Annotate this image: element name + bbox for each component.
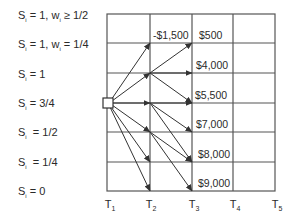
time-label-t3: T3 (189, 198, 200, 215)
decision-tree-grid (0, 0, 294, 216)
value-t3-row6: $9,000 (198, 177, 230, 189)
value-t3-row1: $500 (199, 29, 222, 41)
time-label-t4: T4 (230, 198, 241, 215)
value-t3-row4: $7,000 (196, 118, 228, 130)
time-label-t2: T2 (146, 198, 157, 215)
value-t2-top: -$1,500 (153, 29, 189, 41)
value-t3-row3: $5,500 (195, 89, 227, 101)
arrows (110, 43, 192, 191)
time-label-t5: T5 (272, 198, 283, 215)
time-label-t1: T1 (105, 198, 116, 215)
value-t3-row5: $8,000 (198, 148, 230, 160)
value-t3-row2: $4,000 (196, 59, 228, 71)
decision-node-box (103, 98, 113, 108)
